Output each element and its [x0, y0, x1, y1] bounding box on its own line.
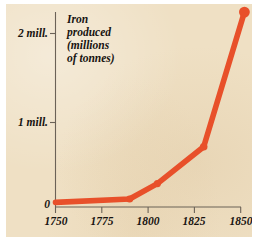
x-tick-label-1775: 1775 [80, 216, 124, 228]
chart-title-line-4: of tonnes) [67, 52, 145, 65]
iron-production-figure: 2 mill. 1 mill. 0 1750 1775 1800 1825 18… [0, 0, 256, 245]
chart-title-line-3: (millions [67, 39, 145, 52]
x-tick-label-1750: 1750 [34, 216, 78, 228]
data-point-1852 [239, 7, 250, 18]
data-point-1805 [154, 180, 161, 187]
y-tick-label-2mill: 2 mill. [6, 28, 48, 40]
x-tick-label-1850: 1850 [219, 216, 252, 228]
y-tick-marks [50, 34, 56, 123]
chart-title-line-1: Iron [67, 13, 145, 26]
x-tick-label-1825: 1825 [172, 216, 216, 228]
chart-plate: 2 mill. 1 mill. 0 1750 1775 1800 1825 18… [6, 4, 252, 237]
chart-title: Iron produced (millions of tonnes) [67, 13, 145, 65]
data-point-1790 [126, 195, 133, 202]
chart-title-line-2: produced [67, 26, 145, 39]
x-tick-marks [56, 207, 241, 213]
data-point-1830 [200, 143, 208, 151]
y-tick-label-1mill: 1 mill. [6, 117, 48, 129]
x-tick-label-1800: 1800 [126, 216, 170, 228]
y-tick-label-0: 0 [6, 199, 50, 211]
